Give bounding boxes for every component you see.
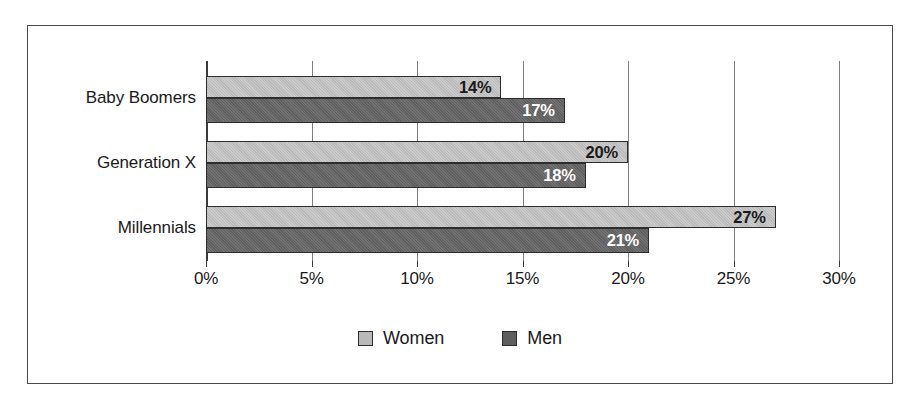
gridline-25: [734, 61, 735, 261]
legend-item-men[interactable]: Men: [502, 328, 562, 349]
legend-item-women[interactable]: Women: [358, 328, 444, 349]
bar-value-women-millennials: 27%: [733, 208, 774, 227]
x-tick-label-30: 30%: [822, 269, 855, 289]
x-axis-tick-labels: 0% 5% 10% 15% 20% 25% 30%: [206, 269, 839, 297]
category-label-millennials: Millennials: [118, 218, 196, 238]
bar-men-baby-boomers: 17%: [206, 98, 565, 123]
x-tick-label-5: 5%: [299, 269, 323, 289]
bar-value-women-baby-boomers: 14%: [459, 78, 500, 97]
bar-value-men-baby-boomers: 17%: [522, 101, 563, 120]
x-tick-label-25: 25%: [717, 269, 750, 289]
bar-women-baby-boomers: 14%: [206, 76, 501, 98]
tick-mark-20: [628, 261, 629, 267]
women-swatch-icon: [358, 331, 373, 346]
bar-men-millennials: 21%: [206, 228, 649, 253]
chart-frame: Baby Boomers Generation X Millennials 14…: [27, 25, 893, 384]
x-tick-label-15: 15%: [506, 269, 539, 289]
gridline-30: [839, 61, 840, 261]
bar-women-millennials: 27%: [206, 206, 776, 228]
tick-mark-10: [417, 261, 418, 267]
x-tick-label-20: 20%: [611, 269, 644, 289]
x-tick-label-0: 0%: [194, 269, 218, 289]
category-axis-labels: Baby Boomers Generation X Millennials: [28, 61, 196, 261]
tick-mark-30: [839, 261, 840, 267]
legend-label-women: Women: [383, 328, 444, 349]
men-swatch-icon: [502, 331, 517, 346]
legend-label-men: Men: [527, 328, 562, 349]
bar-value-women-generation-x: 20%: [586, 143, 627, 162]
chart-legend: Women Men: [28, 328, 892, 349]
bar-value-men-millennials: 21%: [607, 231, 648, 250]
tick-mark-5: [312, 261, 313, 267]
bar-men-generation-x: 18%: [206, 163, 586, 188]
plot-area: 14% 17% 20% 18% 27% 21%: [206, 61, 839, 261]
tick-mark-15: [523, 261, 524, 267]
bar-women-generation-x: 20%: [206, 141, 628, 163]
x-tick-label-10: 10%: [400, 269, 433, 289]
category-label-baby-boomers: Baby Boomers: [86, 88, 196, 108]
tick-mark-0: [206, 261, 207, 267]
bar-value-men-generation-x: 18%: [543, 166, 584, 185]
tick-mark-25: [734, 261, 735, 267]
category-label-generation-x: Generation X: [97, 153, 196, 173]
